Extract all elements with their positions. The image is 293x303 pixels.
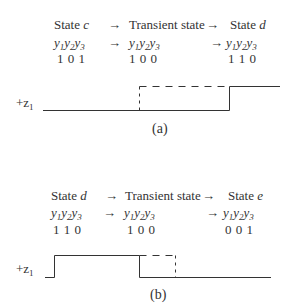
waveform-b [45, 256, 271, 278]
waveform-a [43, 87, 280, 111]
waveforms [0, 0, 293, 303]
